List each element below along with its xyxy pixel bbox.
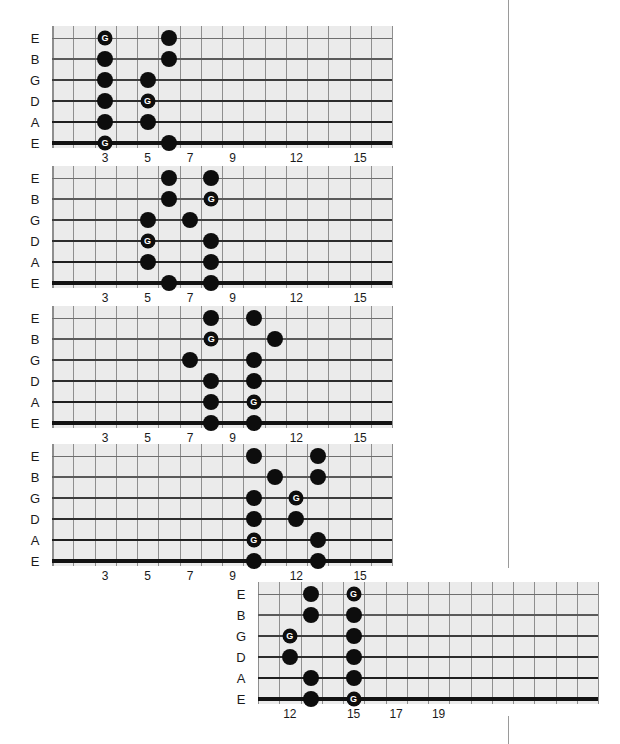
fret-wire-11 [286, 26, 287, 148]
page-divider-upper [508, 0, 509, 568]
string-3 [52, 359, 392, 361]
string-6 [52, 559, 392, 562]
note-dot [246, 553, 262, 569]
fretboard-grid [52, 166, 392, 288]
fret-wire-2 [95, 306, 96, 428]
string-2 [52, 338, 392, 339]
fret-wire-12 [307, 444, 308, 566]
fret-wire-3 [116, 26, 117, 148]
fret-number-5: 5 [136, 152, 160, 164]
fret-wire-4 [137, 26, 138, 148]
string-label-5: A [24, 116, 46, 129]
note-dot [310, 469, 326, 485]
fret-wire-16 [392, 26, 393, 148]
note-dot [182, 212, 198, 228]
fret-wire-7 [201, 26, 202, 148]
root-note-letter: G [350, 590, 357, 599]
note-dot [246, 415, 262, 431]
fret-wire-10 [265, 306, 266, 428]
string-3 [52, 497, 392, 499]
note-dot [267, 469, 283, 485]
note-dot [97, 72, 113, 88]
string-label-2: B [24, 193, 46, 206]
fret-wire-10 [258, 582, 259, 704]
fret-number-12: 12 [284, 432, 308, 444]
fret-number-12: 12 [284, 570, 308, 582]
nut [52, 444, 54, 566]
fret-wire-19 [449, 582, 450, 704]
note-dot [246, 448, 262, 464]
fret-wire-9 [243, 26, 244, 148]
note-dot [346, 628, 362, 644]
string-2 [52, 198, 392, 199]
string-1 [52, 318, 392, 319]
root-note-letter: G [208, 195, 215, 204]
note-dot [161, 135, 177, 151]
string-label-5: A [24, 534, 46, 547]
fret-wire-10 [265, 166, 266, 288]
root-note-letter: G [208, 335, 215, 344]
fret-wire-21 [492, 582, 493, 704]
root-note-dot: G [98, 31, 113, 46]
string-label-1: E [230, 588, 252, 601]
string-label-3: G [24, 74, 46, 87]
fret-number-15: 15 [348, 292, 372, 304]
fret-wire-26 [598, 582, 599, 704]
fret-number-7: 7 [178, 292, 202, 304]
fret-wire-12 [301, 582, 302, 704]
note-dot [140, 212, 156, 228]
fret-number-9: 9 [221, 152, 245, 164]
note-dot [246, 511, 262, 527]
string-label-6: E [24, 555, 46, 568]
fret-wire-3 [116, 306, 117, 428]
fret-wire-4 [137, 166, 138, 288]
fret-wire-8 [222, 26, 223, 148]
fretboard-diagram-4: EBGDAEGG35791215 [24, 444, 404, 590]
fret-number-3: 3 [93, 432, 117, 444]
fret-number-3: 3 [93, 152, 117, 164]
string-4 [52, 240, 392, 242]
string-label-1: E [24, 450, 46, 463]
fret-number-9: 9 [221, 292, 245, 304]
string-label-6: E [24, 277, 46, 290]
fret-wire-12 [307, 306, 308, 428]
string-4 [52, 518, 392, 520]
fret-wire-13 [328, 26, 329, 148]
root-note-letter: G [144, 97, 151, 106]
fret-number-3: 3 [93, 570, 117, 582]
root-note-dot: G [346, 587, 361, 602]
note-dot [267, 331, 283, 347]
note-dot [203, 310, 219, 326]
fret-wire-4 [137, 444, 138, 566]
fret-wire-7 [201, 306, 202, 428]
root-note-letter: G [102, 139, 109, 148]
string-label-2: B [24, 53, 46, 66]
fret-wire-16 [392, 306, 393, 428]
fret-wire-6 [180, 306, 181, 428]
string-label-5: A [24, 256, 46, 269]
root-note-letter: G [350, 695, 357, 704]
string-label-5: A [24, 396, 46, 409]
fret-wire-1 [73, 166, 74, 288]
fret-wire-23 [534, 582, 535, 704]
fret-number-7: 7 [178, 152, 202, 164]
fret-wire-8 [222, 444, 223, 566]
fret-wire-2 [95, 166, 96, 288]
root-note-dot: G [204, 192, 219, 207]
fret-wire-13 [328, 166, 329, 288]
string-label-6: E [230, 693, 252, 706]
fret-wire-13 [328, 306, 329, 428]
fret-wire-1 [73, 26, 74, 148]
fret-number-3: 3 [93, 292, 117, 304]
string-label-2: B [24, 471, 46, 484]
note-dot [161, 191, 177, 207]
fret-number-15: 15 [348, 432, 372, 444]
fretboard [52, 444, 392, 566]
fret-wire-16 [392, 166, 393, 288]
string-6 [52, 421, 392, 424]
fret-wire-15 [371, 26, 372, 148]
string-label-3: G [230, 630, 252, 643]
fret-number-9: 9 [221, 432, 245, 444]
fret-number-5: 5 [136, 432, 160, 444]
fret-wire-6 [180, 166, 181, 288]
